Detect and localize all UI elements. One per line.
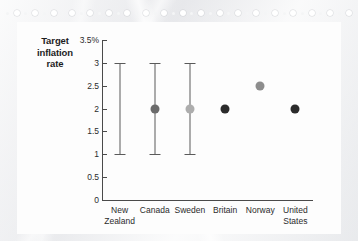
perforation-hole — [253, 10, 259, 16]
perforation-speck — [117, 12, 120, 15]
perforation-speck — [24, 12, 27, 15]
range-cap-lower — [184, 154, 195, 155]
chart-series-united-states[interactable]: UnitedStates — [277, 22, 313, 234]
perforation-hole — [106, 10, 112, 16]
perforation-speck — [43, 12, 46, 15]
perforation-hole — [14, 10, 20, 16]
perforation-hole — [198, 10, 204, 16]
perforation-hole — [290, 10, 296, 16]
perforation-hole — [161, 10, 167, 16]
chart-series-new-zealand[interactable]: NewZealand — [102, 22, 138, 234]
perforation-hole — [69, 10, 75, 16]
chart-figure: Target inflation rate 00.511.522.533.5%N… — [17, 22, 341, 234]
page-perforation-strip — [0, 5, 358, 21]
perforation-hole — [180, 10, 186, 16]
perforation-speck — [319, 12, 322, 15]
perforation-speck — [190, 12, 193, 15]
data-point-marker[interactable] — [185, 104, 194, 113]
perforation-speck — [61, 12, 64, 15]
range-bar — [119, 63, 120, 154]
chart-series-canada[interactable]: Canada — [137, 22, 173, 234]
perforation-hole — [235, 10, 241, 16]
chart-panel: Target inflation rate 00.511.522.533.5%N… — [17, 22, 341, 234]
perforation-hole — [217, 10, 223, 16]
y-axis-tick-label: 2 — [55, 104, 99, 114]
perforation-speck — [98, 12, 101, 15]
chart-series-norway[interactable]: Norway — [242, 22, 278, 234]
perforation-speck — [246, 12, 249, 15]
perforation-speck — [172, 12, 175, 15]
data-point-marker[interactable] — [150, 104, 159, 113]
perforation-speck — [154, 12, 157, 15]
perforation-speck — [209, 12, 212, 15]
perforation-hole — [51, 10, 57, 16]
perforation-speck — [264, 12, 267, 15]
range-cap-lower — [114, 154, 125, 155]
perforation-hole — [327, 10, 333, 16]
plot-area: 00.511.522.533.5%NewZealandCanadaSwedenB… — [17, 22, 341, 234]
perforation-speck — [135, 12, 138, 15]
y-axis-tick-label: 0 — [55, 195, 99, 205]
perforation-hole — [32, 10, 38, 16]
y-axis-tick-label: 2.5 — [55, 81, 99, 91]
range-cap-upper — [149, 63, 160, 64]
chart-series-sweden[interactable]: Sweden — [172, 22, 208, 234]
perforation-speck — [338, 12, 341, 15]
perforation-hole — [346, 10, 352, 16]
x-axis-category-label-line-2: States — [268, 216, 322, 227]
chart-series-britain[interactable]: Britain — [207, 22, 243, 234]
y-axis-tick-label: 1.5 — [55, 126, 99, 136]
perforation-speck — [283, 12, 286, 15]
perforation-speck — [301, 12, 304, 15]
perforation-hole — [272, 10, 278, 16]
y-axis-tick-label: 3.5% — [55, 35, 99, 45]
x-axis-category-label-line-1: United — [268, 205, 322, 216]
perforation-speck — [80, 12, 83, 15]
y-axis-tick-label: 1 — [55, 149, 99, 159]
data-point-marker[interactable] — [256, 81, 265, 90]
y-axis-tick-label: 3 — [55, 58, 99, 68]
perforation-speck — [6, 12, 9, 15]
perforation-hole — [143, 10, 149, 16]
y-axis-tick-label: 0.5 — [55, 172, 99, 182]
perforation-speck — [227, 12, 230, 15]
perforation-hole — [309, 10, 315, 16]
range-cap-upper — [114, 63, 125, 64]
data-point-marker[interactable] — [291, 104, 300, 113]
scanned-page: Target inflation rate 00.511.522.533.5%N… — [0, 0, 358, 241]
perforation-hole — [87, 10, 93, 16]
data-point-marker[interactable] — [221, 104, 230, 113]
range-cap-lower — [149, 154, 160, 155]
x-axis-category-label: UnitedStates — [268, 205, 322, 226]
perforation-hole — [124, 10, 130, 16]
range-cap-upper — [184, 63, 195, 64]
